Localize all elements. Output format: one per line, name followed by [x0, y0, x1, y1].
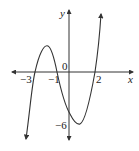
y-tick-neg6: −6: [55, 119, 67, 131]
x-tick-neg3: −3: [20, 73, 32, 85]
x-axis-label: x: [127, 73, 133, 85]
y-axis-label: y: [59, 7, 65, 19]
x-tick-2: 2: [96, 73, 102, 85]
cubic-graph: y x 0 −3 −1 2 −6: [0, 0, 139, 151]
x-tick-neg1: −1: [48, 73, 60, 85]
origin-label: 0: [62, 60, 68, 72]
